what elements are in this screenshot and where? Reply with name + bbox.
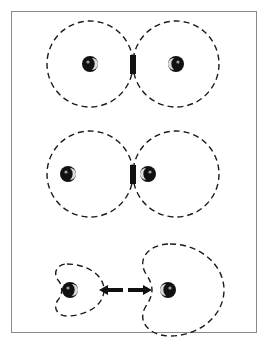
junction-bar-top (130, 55, 136, 74)
nucleus-middle-right (140, 166, 156, 182)
figure-container (0, 0, 270, 347)
nucleus-top-right (168, 56, 184, 72)
lobe-bottom-right (143, 244, 224, 336)
panel-middle (47, 131, 219, 217)
nucleus-bottom-left (62, 282, 78, 298)
panel-bottom (56, 244, 224, 336)
arrow-right (128, 285, 152, 295)
panel-top (47, 21, 219, 107)
nucleus-bottom-right (160, 282, 176, 298)
diagram-canvas (0, 0, 270, 347)
junction-bar-middle (130, 165, 136, 184)
nucleus-middle-left (60, 166, 76, 182)
lobe-middle-left (47, 131, 133, 217)
arrow-left (99, 285, 123, 295)
nucleus-top-left (82, 56, 98, 72)
